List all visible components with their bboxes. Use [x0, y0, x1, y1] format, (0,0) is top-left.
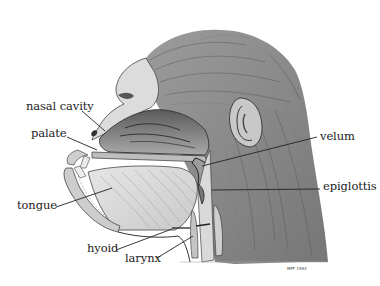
leader-hyoid [116, 229, 172, 250]
tongue-structure [64, 166, 197, 262]
label-velum: velum [320, 131, 355, 143]
leader-larynx [157, 236, 193, 258]
label-palate: palate [31, 128, 67, 140]
head-section-illustration [0, 0, 380, 286]
leader-nasal-cavity [82, 111, 105, 131]
artist-signature: MPF 1993 [287, 266, 307, 271]
label-nasal-cavity: nasal cavity [26, 101, 94, 113]
label-epiglottis: epiglottis [323, 181, 377, 193]
label-tongue: tongue [17, 200, 57, 212]
label-larynx: larynx [125, 253, 161, 265]
label-hyoid: hyoid [87, 243, 118, 255]
